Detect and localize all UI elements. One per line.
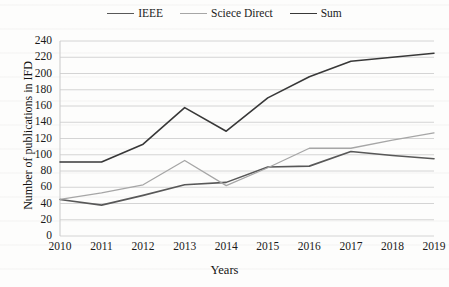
x-tick-label-2019: 2019 [423,241,446,253]
series-line-sum [60,53,434,162]
x-tick-label-2014: 2014 [215,241,238,253]
x-tick-label-2017: 2017 [339,241,362,253]
x-tick-label-2013: 2013 [173,241,196,253]
x-tick-label-2016: 2016 [298,241,321,253]
series-line-ieee [60,152,434,206]
x-tick-label-2010: 2010 [49,241,72,253]
series-line-sciece-direct [60,133,434,200]
x-axis-title: Years [0,263,449,278]
x-tick-label-2012: 2012 [132,241,155,253]
x-tick-label-2011: 2011 [90,241,113,253]
x-tick-label-2018: 2018 [381,241,404,253]
line-chart-figure: IEEE Sciece Direct Sum Number of publica… [0,0,449,287]
x-tick-label-2015: 2015 [256,241,279,253]
